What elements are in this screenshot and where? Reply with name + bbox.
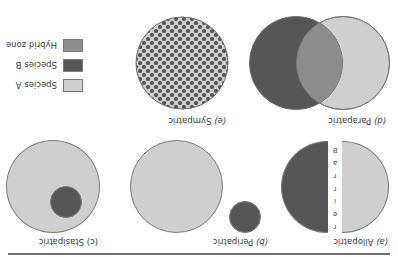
- legend-label-species-b: Species B: [16, 61, 57, 71]
- speciation-modes-figure: (a) Allopatric (b) Peripatric (c) Stasip…: [0, 0, 398, 257]
- legend-swatch-species-a: [63, 79, 83, 92]
- legend-swatch-species-b: [63, 59, 83, 72]
- legend-item-hybrid-zone: Hybrid zone: [6, 39, 83, 52]
- legend-label-species-a: Species A: [16, 81, 57, 91]
- legend-item-species-a: Species A: [16, 79, 83, 92]
- parapatric-shapes: [250, 17, 390, 110]
- legend-label-hybrid-zone: Hybrid zone: [6, 41, 57, 51]
- legend-swatch-hybrid-zone: [63, 39, 83, 52]
- legend-item-species-b: Species B: [16, 59, 83, 72]
- sympatric-mixed-circle: [136, 17, 228, 109]
